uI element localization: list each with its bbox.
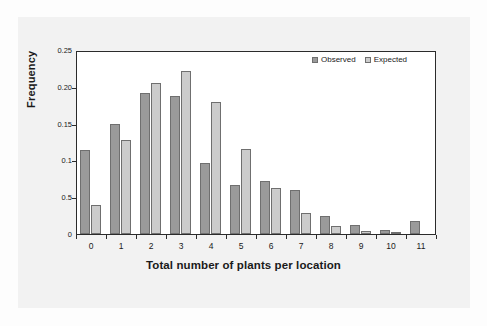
bar-expected-10 [391, 232, 402, 234]
x-axis-tick-mark [196, 235, 197, 239]
bar-observed-7 [290, 190, 301, 234]
legend-swatch-icon [365, 57, 371, 63]
y-axis-tick-labels: 0.250.200.150.10.50 [44, 0, 72, 326]
y-axis-tick-label: 0.1 [62, 156, 72, 165]
x-axis-tick-label: 10 [376, 241, 406, 251]
x-axis-tick-label: 9 [346, 241, 376, 251]
x-axis-tick-label: 4 [196, 241, 226, 251]
x-axis-tick-mark [346, 235, 347, 239]
bar-observed-2 [140, 93, 151, 234]
x-axis-tick-mark [406, 235, 407, 239]
x-axis-tick-label: 8 [316, 241, 346, 251]
x-axis-tick-mark [106, 235, 107, 239]
bar-expected-9 [361, 231, 372, 234]
x-axis-tick-label: 5 [226, 241, 256, 251]
bar-observed-4 [200, 163, 211, 234]
x-axis-tick-mark [166, 235, 167, 239]
x-axis-tick-label: 0 [76, 241, 106, 251]
x-axis-tick-label: 11 [406, 241, 436, 251]
legend-label: Expected [374, 55, 407, 64]
bar-observed-10 [380, 230, 391, 234]
x-axis-tick-label: 3 [166, 241, 196, 251]
legend-entry-expected[interactable]: Expected [365, 55, 407, 64]
x-axis-tick-mark [256, 235, 257, 239]
y-axis-tick-label: 0.20 [57, 83, 72, 92]
bar-expected-4 [211, 102, 222, 234]
bar-expected-8 [331, 226, 342, 234]
figure-root: Frequency 0.250.200.150.10.50 0123456789… [0, 0, 487, 326]
x-axis-tick-mark [316, 235, 317, 239]
bar-expected-0 [91, 205, 102, 234]
bar-observed-3 [170, 96, 181, 234]
bar-observed-0 [80, 150, 91, 234]
bar-observed-6 [260, 181, 271, 234]
x-axis-tick-label: 1 [106, 241, 136, 251]
y-axis-tick-label: 0.15 [57, 120, 72, 129]
y-axis-tick-label: 0 [68, 230, 72, 239]
legend-entry-observed[interactable]: Observed [312, 55, 356, 64]
bar-observed-5 [230, 185, 241, 234]
y-axis-tick-label: 0.5 [62, 193, 72, 202]
x-axis-tick-label: 7 [286, 241, 316, 251]
x-axis-tick-mark [376, 235, 377, 239]
y-axis-title: Frequency [25, 92, 37, 108]
x-axis-tick-mark [286, 235, 287, 239]
bar-expected-5 [241, 149, 252, 234]
x-axis-tick-label: 2 [136, 241, 166, 251]
bar-observed-11 [410, 221, 421, 234]
bar-expected-3 [181, 71, 192, 234]
x-axis-tick-label: 6 [256, 241, 286, 251]
bar-observed-1 [110, 124, 121, 234]
plot-area [76, 51, 436, 235]
bar-expected-7 [301, 213, 312, 234]
x-axis-tick-mark [76, 235, 77, 239]
legend-swatch-icon [312, 57, 318, 63]
legend-label: Observed [321, 55, 356, 64]
bar-expected-2 [151, 83, 162, 234]
bar-expected-6 [271, 188, 282, 234]
bar-observed-9 [350, 225, 361, 234]
x-axis-tick-mark [136, 235, 137, 239]
chart-legend: ObservedExpected [312, 55, 407, 64]
x-axis-title: Total number of plants per location [0, 259, 487, 271]
x-axis-tick-mark [436, 235, 437, 239]
bar-observed-8 [320, 216, 331, 234]
bar-expected-1 [121, 140, 132, 234]
y-axis-tick-label: 0.25 [57, 46, 72, 55]
x-axis-tick-mark [226, 235, 227, 239]
